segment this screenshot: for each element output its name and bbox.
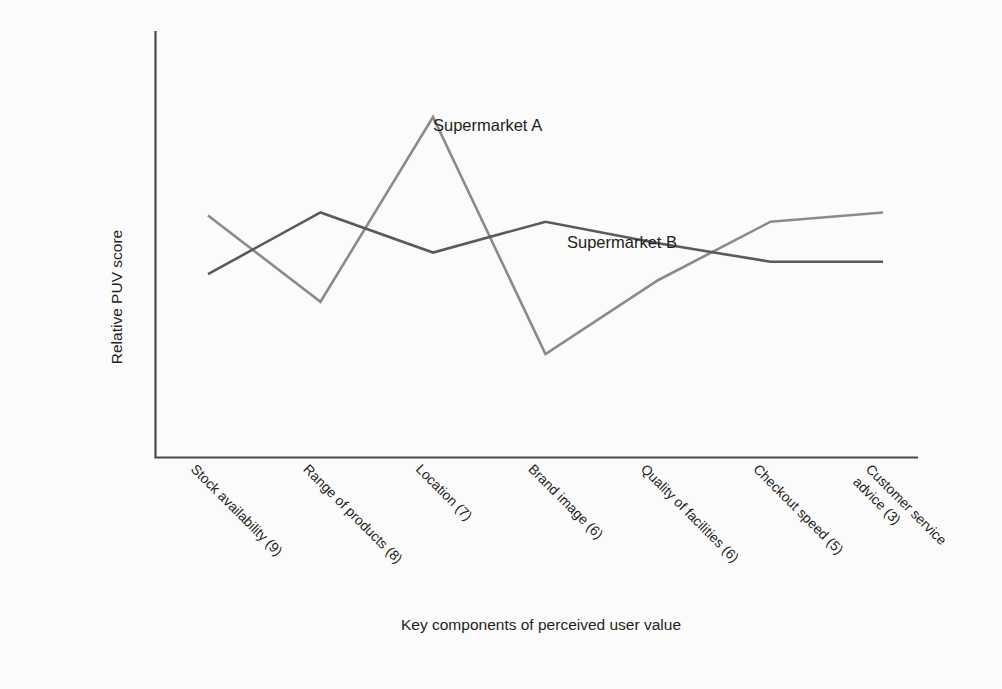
line-chart: Supermarket A Supermarket B Relative PUV… [0,0,1002,689]
chart-axes [156,32,918,458]
chart-container: Supermarket A Supermarket B Relative PUV… [0,0,1002,689]
x-tick-label: Range of products (8) [300,462,405,567]
x-axis-tick-labels: Stock availability (9)Range of products … [188,462,950,567]
series-label-supermarket-a: Supermarket A [433,116,542,134]
x-tick-label: Brand image (6) [525,462,606,543]
y-axis-title: Relative PUV score [108,230,125,364]
x-axis-title: Key components of perceived user value [401,616,681,633]
x-tick-label: Customer serviceadvice (3) [850,462,949,561]
series-line-supermarket-a [208,117,883,354]
x-tick-label: Stock availability (9) [188,462,285,559]
x-tick-label: Location (7) [413,462,475,524]
x-tick-label: Quality of facilities (6) [638,462,742,566]
x-tick-label: Checkout speed (5) [750,462,846,558]
series-label-supermarket-b: Supermarket B [567,233,677,251]
